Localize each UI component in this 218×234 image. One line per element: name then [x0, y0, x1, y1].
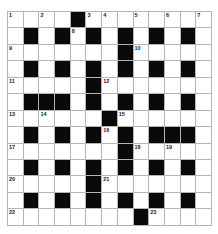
answer-cell[interactable] [196, 45, 212, 61]
answer-cell[interactable] [39, 176, 55, 192]
answer-cell[interactable] [71, 94, 87, 110]
answer-cell[interactable] [24, 111, 40, 127]
answer-cell[interactable] [149, 45, 165, 61]
answer-cell[interactable]: 13 [8, 111, 24, 127]
answer-cell[interactable] [149, 144, 165, 160]
answer-cell[interactable] [24, 144, 40, 160]
answer-cell[interactable] [71, 61, 87, 77]
answer-cell[interactable] [71, 127, 87, 143]
answer-cell[interactable] [86, 45, 102, 61]
answer-cell[interactable] [102, 28, 118, 44]
answer-cell[interactable] [118, 12, 134, 28]
answer-cell[interactable] [102, 45, 118, 61]
answer-cell[interactable]: 1 [8, 12, 24, 28]
answer-cell[interactable] [134, 127, 150, 143]
answer-cell[interactable] [134, 193, 150, 209]
answer-cell[interactable] [196, 28, 212, 44]
answer-cell[interactable] [102, 160, 118, 176]
answer-cell[interactable] [165, 94, 181, 110]
answer-cell[interactable] [181, 45, 197, 61]
answer-cell[interactable] [102, 61, 118, 77]
answer-cell[interactable] [165, 61, 181, 77]
answer-cell[interactable] [181, 12, 197, 28]
answer-cell[interactable] [134, 111, 150, 127]
answer-cell[interactable] [196, 209, 212, 225]
answer-cell[interactable] [134, 94, 150, 110]
answer-cell[interactable] [165, 78, 181, 94]
answer-cell[interactable] [55, 45, 71, 61]
answer-cell[interactable] [102, 209, 118, 225]
answer-cell[interactable] [71, 160, 87, 176]
answer-cell[interactable] [181, 176, 197, 192]
answer-cell[interactable] [165, 45, 181, 61]
answer-cell[interactable] [8, 160, 24, 176]
answer-cell[interactable] [165, 28, 181, 44]
answer-cell[interactable] [8, 28, 24, 44]
answer-cell[interactable] [8, 94, 24, 110]
answer-cell[interactable]: 6 [165, 12, 181, 28]
answer-cell[interactable] [102, 144, 118, 160]
answer-cell[interactable] [134, 61, 150, 77]
answer-cell[interactable] [24, 45, 40, 61]
answer-cell[interactable] [118, 209, 134, 225]
answer-cell[interactable]: 14 [39, 111, 55, 127]
answer-cell[interactable] [134, 176, 150, 192]
answer-cell[interactable] [196, 176, 212, 192]
answer-cell[interactable] [196, 111, 212, 127]
answer-cell[interactable] [55, 144, 71, 160]
answer-cell[interactable] [149, 176, 165, 192]
answer-cell[interactable] [86, 144, 102, 160]
answer-cell[interactable]: 11 [8, 78, 24, 94]
answer-cell[interactable]: 16 [102, 127, 118, 143]
answer-cell[interactable] [55, 176, 71, 192]
answer-cell[interactable] [181, 144, 197, 160]
answer-cell[interactable] [196, 78, 212, 94]
answer-cell[interactable] [196, 160, 212, 176]
answer-cell[interactable] [165, 193, 181, 209]
answer-cell[interactable] [165, 111, 181, 127]
answer-cell[interactable]: 20 [8, 176, 24, 192]
answer-cell[interactable] [196, 61, 212, 77]
answer-cell[interactable] [165, 176, 181, 192]
answer-cell[interactable] [71, 144, 87, 160]
answer-cell[interactable]: 18 [134, 144, 150, 160]
answer-cell[interactable] [196, 94, 212, 110]
answer-cell[interactable] [55, 12, 71, 28]
answer-cell[interactable] [71, 45, 87, 61]
answer-cell[interactable] [196, 144, 212, 160]
answer-cell[interactable] [24, 78, 40, 94]
answer-cell[interactable] [86, 209, 102, 225]
answer-cell[interactable]: 15 [118, 111, 134, 127]
answer-cell[interactable]: 7 [196, 12, 212, 28]
answer-cell[interactable] [39, 144, 55, 160]
answer-cell[interactable]: 12 [102, 78, 118, 94]
answer-cell[interactable]: 3 [86, 12, 102, 28]
answer-cell[interactable]: 10 [134, 45, 150, 61]
answer-cell[interactable] [71, 78, 87, 94]
answer-cell[interactable] [181, 209, 197, 225]
answer-cell[interactable] [8, 127, 24, 143]
answer-cell[interactable] [39, 78, 55, 94]
answer-cell[interactable] [39, 127, 55, 143]
answer-cell[interactable] [134, 160, 150, 176]
answer-cell[interactable] [39, 45, 55, 61]
answer-cell[interactable] [71, 176, 87, 192]
answer-cell[interactable] [55, 111, 71, 127]
answer-cell[interactable]: 4 [102, 12, 118, 28]
answer-cell[interactable] [134, 78, 150, 94]
answer-cell[interactable] [8, 61, 24, 77]
answer-cell[interactable] [149, 12, 165, 28]
answer-cell[interactable] [55, 78, 71, 94]
answer-cell[interactable] [39, 160, 55, 176]
answer-cell[interactable]: 8 [71, 28, 87, 44]
answer-cell[interactable] [102, 193, 118, 209]
answer-cell[interactable] [165, 160, 181, 176]
answer-cell[interactable]: 2 [39, 12, 55, 28]
answer-cell[interactable] [196, 127, 212, 143]
answer-cell[interactable] [149, 78, 165, 94]
answer-cell[interactable] [118, 78, 134, 94]
answer-cell[interactable] [55, 209, 71, 225]
answer-cell[interactable] [24, 176, 40, 192]
answer-cell[interactable] [196, 193, 212, 209]
answer-cell[interactable]: 5 [134, 12, 150, 28]
